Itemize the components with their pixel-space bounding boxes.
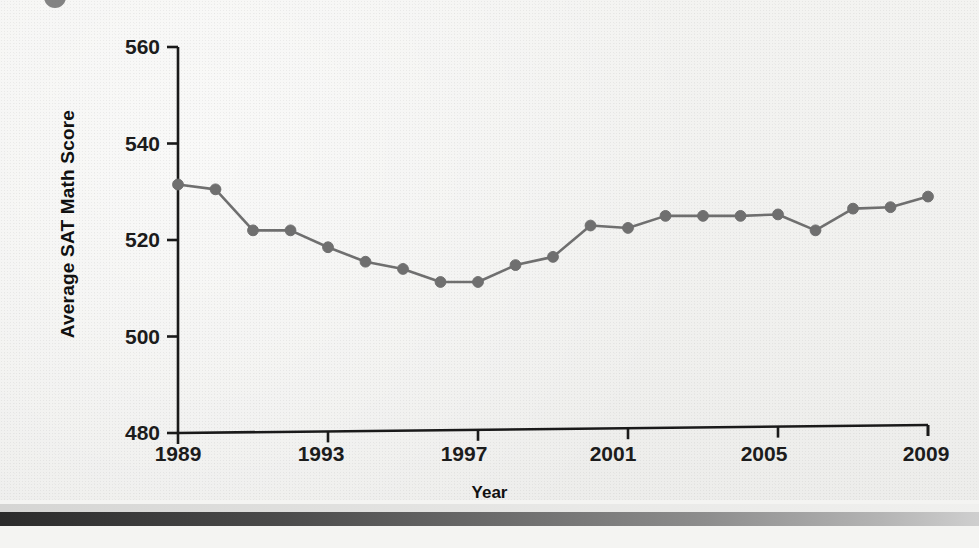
data-point <box>698 210 709 221</box>
data-point <box>623 223 634 234</box>
chart-data-points <box>173 179 934 287</box>
data-point <box>323 242 334 253</box>
x-tick-label-2005: 2005 <box>714 442 814 466</box>
data-point <box>360 256 371 267</box>
data-point <box>248 225 259 236</box>
data-point <box>548 251 559 262</box>
data-point <box>735 210 746 221</box>
data-point <box>173 179 184 190</box>
data-point <box>510 260 521 271</box>
data-point <box>398 264 409 275</box>
x-tick-label-1993: 1993 <box>271 442 371 466</box>
x-tick-label-2009: 2009 <box>876 442 976 466</box>
data-point <box>435 277 446 288</box>
x-tick-label-1997: 1997 <box>414 442 514 466</box>
data-point <box>923 191 934 202</box>
data-point <box>848 203 859 214</box>
scanned-page: 560 540 520 500 480 1989 1993 1997 2001 … <box>0 0 979 548</box>
data-point <box>585 220 596 231</box>
data-point <box>660 210 671 221</box>
x-axis-title: Year <box>0 483 979 503</box>
line-chart: 560 540 520 500 480 1989 1993 1997 2001 … <box>0 0 979 500</box>
y-axis-title: Average SAT Math Score <box>57 109 79 339</box>
data-point <box>285 225 296 236</box>
chart-axes <box>167 47 928 444</box>
data-point <box>473 277 484 288</box>
data-point <box>885 202 896 213</box>
y-tick-label-560: 560 <box>50 35 160 59</box>
x-tick-label-2001: 2001 <box>563 442 663 466</box>
x-tick-label-1989: 1989 <box>128 442 228 466</box>
scan-edge-bar <box>0 512 979 526</box>
data-point <box>773 209 784 220</box>
data-point <box>810 225 821 236</box>
data-point <box>210 184 221 195</box>
